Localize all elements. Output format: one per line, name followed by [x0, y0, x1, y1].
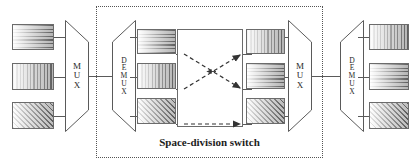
space-division-switch-caption: Space-division switch	[96, 136, 323, 148]
route-arrow-2-to-1	[184, 55, 240, 89]
diagram-canvas: M U X D E M U X	[0, 0, 417, 165]
route-arrow-1-to-2	[184, 54, 240, 88]
